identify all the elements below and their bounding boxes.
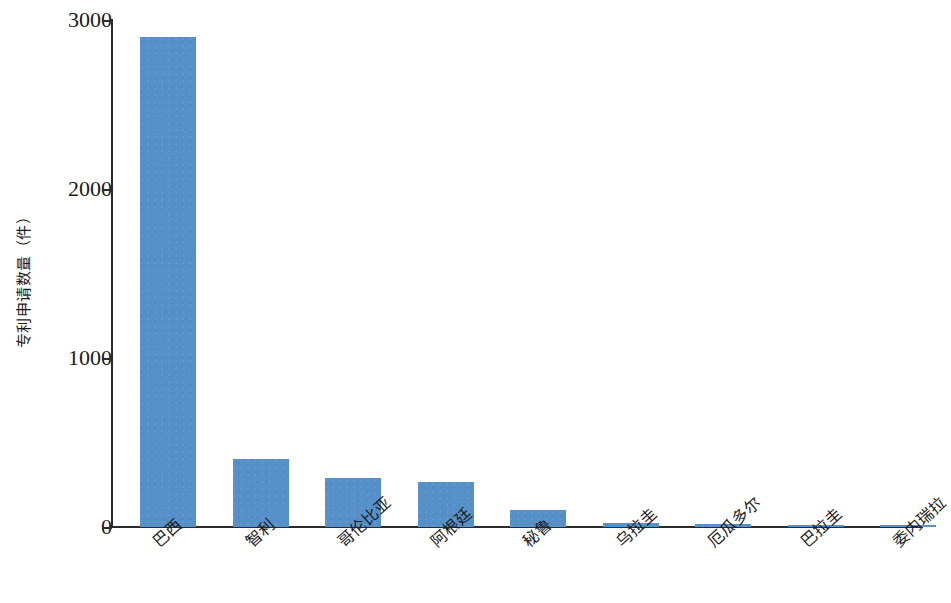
bar <box>140 37 196 527</box>
